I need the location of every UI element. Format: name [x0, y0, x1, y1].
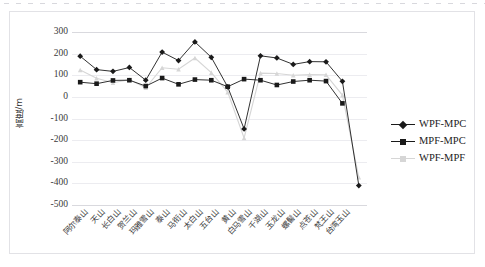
y-tick-label: 300	[34, 27, 68, 37]
plot-area	[72, 32, 367, 205]
legend-swatch-mpf-mpc	[391, 137, 415, 147]
data-point	[356, 183, 362, 189]
data-point	[274, 55, 280, 61]
data-point	[94, 81, 99, 86]
y-tick-label: -500	[34, 200, 68, 210]
data-point	[193, 56, 198, 61]
legend-label-mpf-mpc: MPF-MPC	[419, 136, 466, 147]
y-tick-label: -200	[34, 135, 68, 145]
data-point	[143, 84, 148, 89]
data-point	[160, 76, 165, 81]
chart-frame: 高度/m 3002001000-100-200-300-400-500 阿尔泰山…	[9, 11, 475, 254]
y-tick-label: 200	[34, 49, 68, 59]
gridline	[72, 205, 367, 206]
chart-page: 高度/m 3002001000-100-200-300-400-500 阿尔泰山…	[0, 0, 485, 267]
series-mpf-mpc	[78, 76, 345, 106]
data-point	[127, 78, 132, 83]
y-tick-label: 0	[34, 92, 68, 102]
data-point	[78, 68, 83, 73]
series-layer	[72, 32, 367, 205]
series-wpf-mpf	[78, 56, 361, 180]
y-tick-label: -100	[34, 114, 68, 124]
data-point	[193, 77, 198, 82]
legend-label-wpf-mpc: WPF-MPC	[419, 119, 466, 130]
y-tick-label: -300	[34, 157, 68, 167]
legend-swatch-wpf-mpc	[391, 120, 415, 130]
y-axis-title: 高度/m	[12, 98, 25, 128]
x-axis-tick-labels: 阿尔泰山天山长白山贺兰山玛雅雪山泰山马衔山太白山五台山黄山白马雪山千湖山玉龙山螺…	[72, 208, 367, 267]
chart-legend: WPF-MPC MPF-MPC WPF-MPF	[391, 116, 483, 167]
data-point	[242, 77, 247, 82]
legend-label-wpf-mpf: WPF-MPF	[419, 153, 465, 164]
data-point	[340, 101, 345, 106]
legend-item-wpf-mpc[interactable]: WPF-MPC	[391, 116, 483, 133]
data-point	[242, 136, 247, 141]
data-point	[159, 49, 165, 55]
legend-item-mpf-mpc[interactable]: MPF-MPC	[391, 133, 483, 150]
data-point	[110, 68, 116, 74]
data-point	[78, 80, 83, 85]
data-point	[324, 79, 329, 84]
y-tick-label: -400	[34, 178, 68, 188]
data-point	[275, 83, 280, 88]
y-axis-tick-labels: 3002001000-100-200-300-400-500	[30, 32, 68, 205]
data-point	[291, 79, 296, 84]
y-tick-label: 100	[34, 70, 68, 80]
data-point	[111, 78, 116, 83]
data-point	[176, 82, 181, 87]
data-point	[307, 59, 313, 65]
legend-item-wpf-mpf[interactable]: WPF-MPF	[391, 150, 483, 167]
top-ruler-strip	[0, 0, 485, 9]
data-point	[258, 53, 264, 59]
x-tick-label: 阿尔泰山	[62, 208, 90, 237]
data-point	[209, 78, 214, 83]
data-point	[307, 78, 312, 83]
data-point	[258, 78, 263, 83]
series-wpf-mpc	[77, 39, 361, 188]
legend-swatch-wpf-mpf	[391, 154, 415, 164]
data-point	[290, 62, 296, 68]
